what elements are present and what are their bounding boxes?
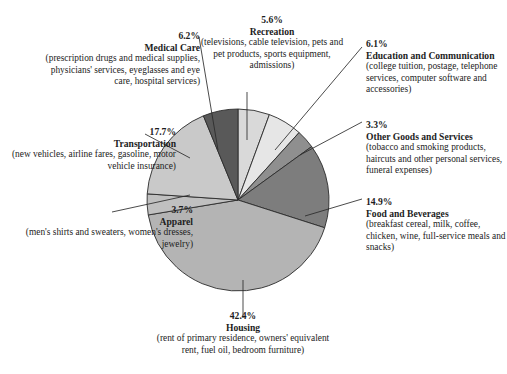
slice-food [238,147,329,228]
callout-food-title: Food and Beverages [366,208,507,220]
callout-other-goods-title: Other Goods and Services [366,131,507,143]
callout-education: 6.1% Education and Communication (colleg… [366,38,506,96]
callout-housing: 42.4% Housing (rent of primary residence… [150,310,336,356]
callout-transportation-percent: 17.7% [10,126,176,138]
callout-food-detail: (breakfast cereal, milk, coffee, chicken… [366,219,507,254]
callout-transportation-detail: (new vehicles, airline fares, gasoline, … [10,149,176,172]
callout-apparel-detail: (men's shirts and sweaters, women's dres… [10,227,193,250]
callout-food-and-beverages: 14.9% Food and Beverages (breakfast cere… [366,196,507,254]
callout-medical-care-percent: 6.2% [34,30,200,42]
callout-housing-detail: (rent of primary residence, owners' equi… [150,333,336,356]
callout-medical-care: 6.2% Medical Care (prescription drugs an… [34,30,200,88]
callout-education-percent: 6.1% [366,38,506,50]
callout-apparel: 3.7% Apparel (men's shirts and sweaters,… [10,204,193,250]
callout-food-percent: 14.9% [366,196,507,208]
pie-chart-figure: 6.2% Medical Care (prescription drugs an… [0,0,507,374]
callout-other-goods-detail: (tobacco and smoking products, haircuts … [366,142,507,177]
callout-recreation-title: Recreation [196,26,348,38]
callout-medical-care-title: Medical Care [34,42,200,54]
slice-medical-care [203,109,238,200]
callout-other-goods: 3.3% Other Goods and Services (tobacco a… [366,119,507,177]
callout-apparel-percent: 3.7% [10,204,193,216]
callout-transportation: 17.7% Transportation (new vehicles, airl… [10,126,176,172]
callout-housing-percent: 42.4% [150,310,336,322]
callout-recreation-detail: (televisions, cable television, pets and… [196,37,348,72]
callout-transportation-title: Transportation [10,138,176,150]
callout-education-title: Education and Communication [366,50,506,62]
callout-recreation: 5.6% Recreation (televisions, cable tele… [196,14,348,72]
leader-line-food [305,199,362,216]
callout-other-goods-percent: 3.3% [366,119,507,131]
slice-recreation [238,109,269,200]
leader-line-other-goods [300,122,362,155]
slice-other-goods [238,133,312,200]
callout-housing-title: Housing [150,322,336,334]
callout-medical-care-detail: (prescription drugs and medical supplies… [34,53,200,88]
callout-recreation-percent: 5.6% [196,14,348,26]
callout-apparel-title: Apparel [10,216,193,228]
callout-education-detail: (college tuition, postage, telephone ser… [366,61,506,96]
slice-education [238,115,299,200]
